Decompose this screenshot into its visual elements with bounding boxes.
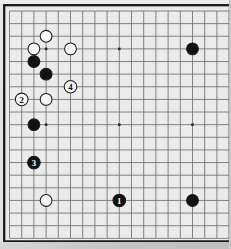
star-point — [118, 123, 121, 126]
move-number-label: 1 — [117, 196, 121, 206]
move-number-label: 3 — [32, 158, 37, 168]
star-point — [45, 123, 48, 126]
stone-black — [187, 195, 199, 207]
stone-black — [187, 43, 199, 55]
stone-white — [28, 43, 40, 55]
stone-white — [40, 94, 52, 106]
go-board: 4231 — [0, 0, 231, 249]
stone-white — [40, 195, 52, 207]
stone-black — [28, 56, 40, 68]
paper-margin-right — [229, 0, 231, 249]
stone-black — [40, 68, 52, 80]
move-number-label: 2 — [19, 95, 24, 105]
move-number-label: 4 — [68, 82, 73, 92]
stone-black — [28, 119, 40, 131]
paper-margin-bottom — [0, 242, 231, 249]
star-point — [118, 48, 121, 51]
stone-white — [65, 43, 77, 55]
star-point — [191, 123, 194, 126]
star-point — [45, 48, 48, 51]
stone-white — [40, 30, 52, 42]
go-diagram-photo: 4231 — [0, 0, 231, 249]
